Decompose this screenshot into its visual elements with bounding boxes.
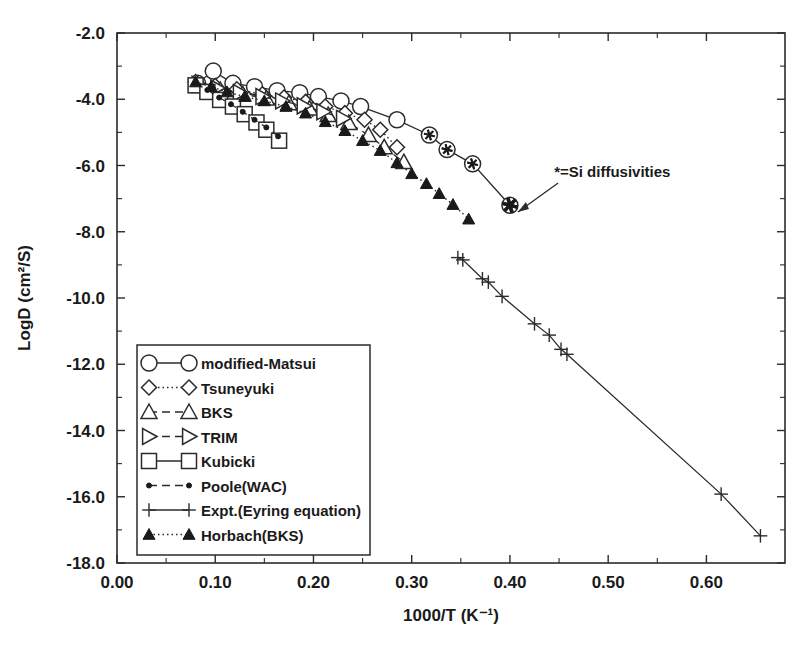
x-tick-label: 0.50	[592, 573, 625, 592]
y-tick-label: -18.0	[66, 554, 105, 573]
y-tick-label: -2.0	[76, 24, 105, 43]
legend-group: modified-MatsuiTsuneyukiBKSTRIMKubickiPo…	[137, 345, 370, 555]
legend-label: Poole(WAC)	[201, 478, 287, 495]
series-Expt.(Eyring equation)	[451, 251, 767, 543]
data-point-Poole(WAC)	[264, 125, 269, 130]
legend-marker	[182, 454, 197, 469]
legend-marker	[186, 483, 191, 488]
data-point-Horbach(BKS)	[433, 188, 445, 199]
data-point-Poole(WAC)	[276, 134, 281, 139]
chart-canvas: 0.000.100.200.300.400.500.60-2.0-4.0-6.0…	[0, 0, 807, 645]
x-tick-label: 0.60	[690, 573, 723, 592]
y-tick-label: -16.0	[66, 488, 105, 507]
y-tick-label: -6.0	[76, 157, 105, 176]
data-point-modified-Matsui	[389, 112, 405, 128]
legend-label: modified-Matsui	[201, 355, 316, 372]
y-tick-label: -12.0	[66, 355, 105, 374]
legend-marker	[142, 454, 157, 469]
x-tick-label: 0.10	[199, 573, 232, 592]
annotation-group: *=Si diffusivities	[518, 163, 671, 212]
legend-marker	[141, 355, 157, 371]
x-tick-label: 0.30	[395, 573, 428, 592]
series-Horbach(BKS)	[190, 76, 475, 224]
data-point-Horbach(BKS)	[420, 178, 432, 189]
x-tick-label: 0.00	[100, 573, 133, 592]
data-point-Horbach(BKS)	[406, 168, 418, 179]
legend-label: Expt.(Eyring equation)	[201, 502, 361, 519]
x-tick-label: 0.20	[297, 573, 330, 592]
legend-label: Tsuneyuki	[201, 380, 274, 397]
annotation-label: *=Si diffusivities	[554, 163, 670, 180]
data-point-Horbach(BKS)	[447, 199, 459, 210]
legend-label: BKS	[201, 404, 233, 421]
legend-marker	[146, 483, 151, 488]
data-point-Poole(WAC)	[252, 117, 257, 122]
legend-marker	[181, 355, 197, 371]
data-point-Poole(WAC)	[240, 109, 245, 114]
y-tick-label: -10.0	[66, 289, 105, 308]
y-axis-title: LogD (cm²/S)	[15, 245, 34, 351]
x-tick-label: 0.40	[493, 573, 526, 592]
legend-label: Horbach(BKS)	[201, 527, 304, 544]
legend-label: TRIM	[201, 429, 238, 446]
legend-box	[137, 345, 370, 555]
annotation-arrowhead	[518, 202, 529, 212]
chart-figure: 0.000.100.200.300.400.500.60-2.0-4.0-6.0…	[0, 0, 807, 645]
y-tick-label: -8.0	[76, 223, 105, 242]
data-point-Horbach(BKS)	[463, 213, 475, 224]
data-point-Poole(WAC)	[228, 102, 233, 107]
x-axis-title: 1000/T (K⁻¹)	[403, 606, 499, 625]
data-point-modified-Matsui	[205, 63, 221, 79]
data-point-Poole(WAC)	[217, 95, 222, 100]
data-point-Tsuneyuki	[373, 122, 388, 137]
data-point-modified-Matsui	[353, 99, 369, 115]
legend-label: Kubicki	[201, 453, 255, 470]
y-tick-label: -14.0	[66, 422, 105, 441]
y-tick-label: -4.0	[76, 90, 105, 109]
